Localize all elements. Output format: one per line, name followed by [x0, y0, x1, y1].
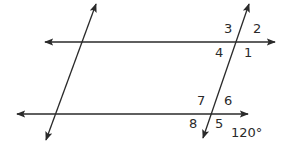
angle-label: 1 [244, 45, 252, 60]
angle-label: 5 [215, 116, 223, 131]
left-transversal-line [46, 4, 96, 140]
angle-label: 6 [224, 93, 232, 108]
angle-label: 2 [253, 21, 261, 36]
parallel-lines-diagram: 32417685120° [0, 0, 281, 150]
angle-label: 8 [189, 116, 197, 131]
angle-label: 3 [224, 21, 232, 36]
angle-label: 7 [197, 93, 205, 108]
angle-label: 4 [215, 45, 223, 60]
angle-label: 120° [231, 125, 262, 140]
